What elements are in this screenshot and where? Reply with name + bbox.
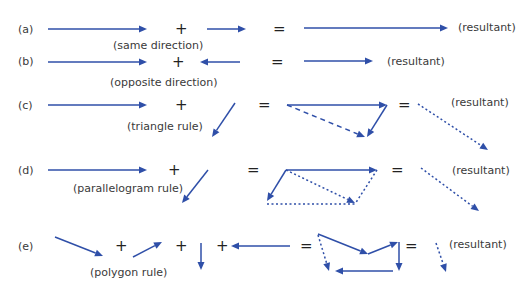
row-b-plus: + bbox=[172, 53, 185, 71]
row-e-poly-1-arrowhead bbox=[359, 248, 368, 254]
row-e-vector-1 bbox=[55, 237, 103, 256]
row-a-vector-1-arrowhead bbox=[139, 26, 147, 33]
row-e-vector-2 bbox=[133, 242, 162, 257]
row-e-vector-3 bbox=[198, 243, 205, 270]
row-e-poly-4-arrowhead bbox=[335, 268, 343, 275]
row-d-para-b-shaft bbox=[271, 170, 286, 194]
row-c-sum-b bbox=[367, 105, 387, 137]
row-b-vector-1-arrowhead bbox=[139, 59, 147, 66]
row-e-poly-3 bbox=[396, 242, 403, 271]
row-c-vector-2 bbox=[212, 103, 235, 137]
row-d-para-b-arrowhead bbox=[267, 192, 274, 201]
row-e-vector-1-shaft bbox=[55, 237, 96, 253]
row-b-resultant-vector bbox=[304, 58, 373, 65]
row-b-vector-2-arrowhead bbox=[200, 59, 208, 66]
row-d-resultant-label: (resultant) bbox=[452, 164, 510, 177]
row-b-equals: = bbox=[271, 53, 284, 71]
row-d-equals: = bbox=[247, 161, 260, 179]
row-c-sum-b-arrowhead bbox=[367, 128, 374, 137]
row-a-equals: = bbox=[273, 20, 286, 38]
row-a-vector-2-arrowhead bbox=[238, 26, 246, 33]
row-c-sum-dashed-shaft bbox=[287, 105, 358, 134]
row-c-sum-a bbox=[287, 102, 387, 109]
row-c-resultant-vector-shaft bbox=[418, 104, 481, 146]
row-e-marker: (e) bbox=[18, 240, 33, 253]
row-d-vector-2 bbox=[182, 170, 208, 203]
row-d-equals-2: = bbox=[391, 161, 404, 179]
row-a-vector-1 bbox=[48, 26, 147, 33]
row-d-vector-1 bbox=[48, 167, 147, 174]
row-d-vector-1-arrowhead bbox=[139, 167, 147, 174]
row-e-vector-3-arrowhead bbox=[198, 262, 205, 270]
row-e-poly-resultant-arrowhead bbox=[323, 262, 330, 271]
row-a-rule-caption: (same direction) bbox=[113, 39, 203, 52]
row-e-vector-4-arrowhead bbox=[231, 243, 239, 250]
row-e-resultant-vector bbox=[436, 243, 447, 272]
row-c-sum-dashed bbox=[287, 105, 365, 137]
row-c-resultant-vector-arrowhead bbox=[479, 143, 488, 150]
row-b-marker: (b) bbox=[18, 55, 34, 68]
row-d-para-a-arrowhead bbox=[369, 167, 377, 174]
row-c-equals-2: = bbox=[398, 96, 411, 114]
row-a-resultant-label: (resultant) bbox=[458, 21, 516, 34]
row-a-plus: + bbox=[175, 20, 188, 38]
row-d-plus: + bbox=[168, 161, 181, 179]
row-b-vector-2 bbox=[200, 59, 240, 66]
row-a-resultant-vector bbox=[304, 25, 448, 32]
row-b-vector-1 bbox=[48, 59, 147, 66]
row-b-resultant-label: (resultant) bbox=[387, 55, 445, 68]
row-e-plus-2: + bbox=[175, 237, 188, 255]
row-e-poly-4 bbox=[335, 268, 393, 275]
row-c-plus: + bbox=[175, 96, 188, 114]
row-e-equals-2: = bbox=[405, 237, 418, 255]
row-e-poly-3-arrowhead bbox=[396, 263, 403, 271]
row-e-poly-2 bbox=[368, 242, 398, 254]
row-e-poly-1-shaft bbox=[318, 234, 361, 251]
row-e-resultant-vector-arrowhead bbox=[440, 263, 447, 272]
row-a-marker: (a) bbox=[18, 23, 33, 36]
row-e-vector-2-shaft bbox=[133, 246, 155, 257]
row-e-plus-1: + bbox=[115, 237, 128, 255]
row-d-para-b bbox=[267, 170, 286, 201]
row-a-resultant-vector-arrowhead bbox=[440, 25, 448, 32]
row-e-poly-resultant-shaft bbox=[318, 235, 327, 263]
row-b-resultant-vector-arrowhead bbox=[365, 58, 373, 65]
row-e-poly-1 bbox=[318, 234, 368, 254]
row-c-vector-2-arrowhead bbox=[212, 128, 219, 137]
row-d-para-diagonal-shaft bbox=[286, 170, 348, 200]
row-d-marker: (d) bbox=[18, 164, 34, 177]
row-d-resultant-vector-arrowhead bbox=[470, 203, 479, 211]
row-c-vector-1 bbox=[48, 102, 147, 109]
row-e-resultant-vector-shaft bbox=[436, 243, 443, 264]
row-c-resultant-label: (resultant) bbox=[451, 96, 509, 109]
row-d-para-a bbox=[286, 167, 377, 174]
vector-addition-diagram: (a) (b) (c) (d) (e) (same direction) (op… bbox=[0, 0, 527, 300]
row-d-para-side-right bbox=[355, 170, 377, 204]
row-e-rule-caption: (polygon rule) bbox=[90, 266, 167, 279]
row-d-vector-2-shaft bbox=[187, 170, 208, 197]
row-e-poly-2-shaft bbox=[368, 245, 391, 254]
row-c-rule-caption: (triangle rule) bbox=[127, 120, 203, 133]
row-c-marker: (c) bbox=[18, 99, 33, 112]
row-d-para-diagonal bbox=[286, 170, 355, 203]
row-c-resultant-vector bbox=[418, 104, 488, 150]
row-c-equals: = bbox=[258, 96, 271, 114]
row-e-poly-2-arrowhead bbox=[389, 242, 398, 248]
row-b-rule-caption: (opposite direction) bbox=[110, 76, 218, 89]
row-a-vector-2 bbox=[207, 26, 246, 33]
row-d-rule-caption: (parallelogram rule) bbox=[73, 182, 183, 195]
row-e-vector-1-arrowhead bbox=[94, 250, 103, 257]
row-e-equals: = bbox=[300, 237, 313, 255]
row-c-vector-1-arrowhead bbox=[139, 102, 147, 109]
row-c-sum-b-shaft bbox=[371, 105, 387, 130]
row-e-vector-4 bbox=[231, 243, 290, 250]
row-e-resultant-label: (resultant) bbox=[449, 238, 507, 251]
row-e-poly-resultant bbox=[318, 235, 330, 271]
row-e-plus-3: + bbox=[216, 237, 229, 255]
row-c-vector-2-shaft bbox=[216, 103, 235, 130]
